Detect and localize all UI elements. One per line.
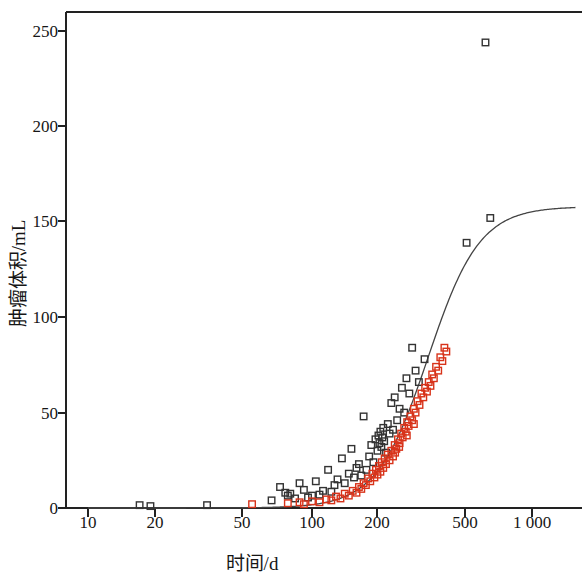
data-point — [403, 375, 410, 382]
data-point — [360, 413, 367, 420]
x-tick-10: 10 — [68, 514, 108, 531]
data-point — [487, 215, 494, 222]
x-tick-20: 20 — [135, 514, 175, 531]
y-axis-ticks — [58, 31, 66, 508]
data-point — [394, 417, 401, 424]
x-tick-1000: 1 000 — [500, 514, 564, 531]
data-point — [406, 390, 413, 397]
y-axis-title: 肿瘤体积/mL — [3, 194, 30, 354]
data-point — [339, 455, 346, 462]
y-tick-250: 250 — [12, 23, 58, 40]
x-tick-50: 50 — [222, 514, 262, 531]
data-point — [328, 489, 335, 496]
y-tick-0: 0 — [12, 500, 58, 517]
fit-curve — [88, 208, 575, 508]
data-point — [409, 344, 416, 351]
x-axis-title-text: 时间/d — [226, 548, 279, 575]
x-tick-100: 100 — [288, 514, 336, 531]
tumor-growth-chart: 250 200 150 100 50 0 肿瘤体积/mL 10 20 50 10… — [0, 0, 582, 576]
data-point — [313, 478, 320, 485]
data-point — [268, 497, 275, 504]
data-point — [285, 500, 292, 507]
data-point — [463, 240, 470, 247]
data-point — [348, 446, 355, 453]
data-point — [482, 39, 489, 46]
plot-canvas — [0, 0, 582, 576]
x-tick-200: 200 — [353, 514, 401, 531]
axis-frame — [66, 12, 582, 508]
data-point — [399, 385, 406, 392]
data-point — [296, 480, 303, 487]
data-point — [301, 501, 308, 508]
x-axis-title: 时间/d — [0, 548, 582, 575]
fit-curve-path — [88, 208, 575, 508]
data-series-black — [136, 39, 493, 509]
data-point — [325, 467, 332, 474]
x-tick-500: 500 — [441, 514, 489, 531]
data-point — [249, 501, 256, 508]
data-point — [412, 367, 419, 374]
data-point — [341, 480, 348, 487]
y-tick-200: 200 — [12, 118, 58, 135]
y-tick-50: 50 — [12, 405, 58, 422]
data-point — [301, 487, 308, 494]
